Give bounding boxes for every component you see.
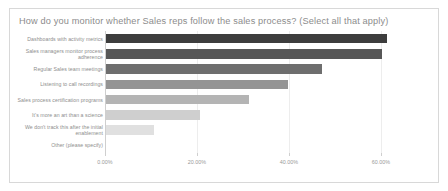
- category-label: Sales managers monitor process adherence: [17, 48, 103, 60]
- chart-card: How do you monitor whether Sales reps fo…: [9, 8, 439, 183]
- x-axis-ticks: 0.00%20.00%40.00%60.00%: [10, 153, 440, 177]
- bar[interactable]: [106, 125, 154, 135]
- bar-row: Sales process certification programs: [10, 92, 440, 107]
- category-label: Regular Sales team meetings: [17, 66, 103, 72]
- category-label: It's more an art than a science: [17, 112, 103, 118]
- bar[interactable]: [106, 95, 249, 105]
- x-axis-tick-label: 20.00%: [188, 159, 206, 165]
- bar[interactable]: [106, 80, 288, 90]
- x-axis-tick-mark: [381, 153, 382, 156]
- category-label: Other (please specify): [17, 142, 103, 148]
- bar-row: Other (please specify): [10, 138, 440, 153]
- bar-row: We don't track this after the initial en…: [10, 123, 440, 138]
- bar-rows: Dashboards with activity metricsSales ma…: [10, 31, 440, 153]
- bar[interactable]: [106, 34, 387, 44]
- x-axis-tick-mark: [197, 153, 198, 156]
- bar-row: Listening to call recordings: [10, 77, 440, 92]
- bar[interactable]: [106, 64, 322, 74]
- chart-plot-area: Dashboards with activity metricsSales ma…: [10, 31, 440, 183]
- bar-row: It's more an art than a science: [10, 107, 440, 122]
- x-axis-tick-label: 0.00%: [97, 159, 112, 165]
- bar-row: Sales managers monitor process adherence: [10, 46, 440, 61]
- bar[interactable]: [106, 49, 382, 59]
- x-axis-tick-mark: [105, 153, 106, 156]
- x-axis-tick-label: 60.00%: [372, 159, 390, 165]
- x-axis-tick-mark: [289, 153, 290, 156]
- x-axis-tick-label: 40.00%: [280, 159, 298, 165]
- category-label: Sales process certification programs: [17, 97, 103, 103]
- category-label: We don't track this after the initial en…: [17, 124, 103, 136]
- category-label: Listening to call recordings: [17, 81, 103, 87]
- bar-row: Regular Sales team meetings: [10, 62, 440, 77]
- bar[interactable]: [106, 110, 200, 120]
- category-label: Dashboards with activity metrics: [17, 36, 103, 42]
- chart-title: How do you monitor whether Sales reps fo…: [19, 16, 389, 26]
- bar-row: Dashboards with activity metrics: [10, 31, 440, 46]
